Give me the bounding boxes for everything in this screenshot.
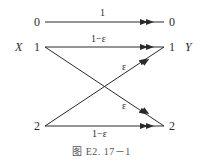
arrowhead-icon bbox=[141, 107, 151, 116]
figure-caption: 图 E2. 17－1 bbox=[0, 146, 203, 158]
output-node-2: 2 bbox=[169, 120, 175, 132]
output-node-0: 0 bbox=[169, 16, 175, 28]
arrowhead-icon bbox=[141, 56, 151, 65]
input-node-0: 0 bbox=[34, 16, 40, 28]
arrowhead-icon bbox=[146, 44, 154, 50]
edge-label-0-0: 1 bbox=[100, 8, 105, 18]
input-node-2: 2 bbox=[34, 120, 40, 132]
output-variable-label: Y bbox=[185, 41, 192, 53]
edge-label-1-2: ε bbox=[122, 101, 126, 111]
input-node-1: 1 bbox=[34, 41, 40, 53]
arrowhead-icon bbox=[146, 123, 154, 129]
edge-label-1-1: 1−ε bbox=[91, 34, 106, 44]
input-variable-label: X bbox=[15, 41, 22, 53]
arrowhead-icon bbox=[146, 19, 154, 25]
edge-label-2-1: ε bbox=[122, 62, 126, 72]
edge-label-2-2: 1−ε bbox=[92, 129, 107, 139]
output-node-1: 1 bbox=[169, 41, 175, 53]
